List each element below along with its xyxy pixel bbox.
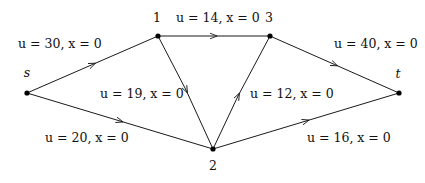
node-label-1: 1 <box>153 10 161 25</box>
node-label-2: 2 <box>209 158 217 173</box>
node-3 <box>267 33 272 38</box>
flow-network-diagram: s 1 3 t 2 u = 30, x = 0 u = 20, x = 0 u … <box>0 0 425 183</box>
edge-label-2-t: u = 16, x = 0 <box>307 130 391 145</box>
edge-label-2-3: u = 12, x = 0 <box>250 86 334 101</box>
node-label-t: t <box>395 66 401 81</box>
edge-label-3-t: u = 40, x = 0 <box>334 36 418 51</box>
edge-label-s-2: u = 20, x = 0 <box>45 130 129 145</box>
edge-label-1-3: u = 14, x = 0 <box>176 10 260 25</box>
node-label-s: s <box>24 65 30 80</box>
edge-label-s-1: u = 30, x = 0 <box>18 36 102 51</box>
node-t <box>396 90 401 95</box>
node-s <box>24 90 29 95</box>
edge-label-1-2: u = 19, x = 0 <box>100 86 184 101</box>
node-2 <box>210 146 215 151</box>
node-label-3: 3 <box>265 10 273 25</box>
node-1 <box>155 33 160 38</box>
